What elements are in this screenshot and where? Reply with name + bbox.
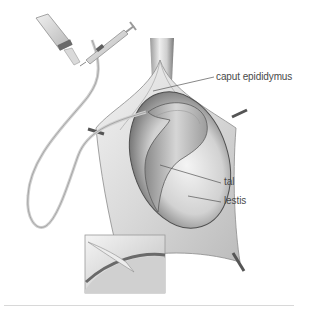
illustration-canvas (0, 0, 310, 312)
label-tal: tal (224, 177, 234, 187)
bottom-divider (4, 305, 294, 306)
magnified-inset (85, 235, 165, 293)
small-syringe (80, 22, 136, 66)
label-caput-epididymus: caput epididymus (216, 72, 292, 82)
large-syringe (36, 14, 80, 65)
anatomical-illustration: caput epididymus tal lestis (0, 0, 310, 312)
label-testis: lestis (224, 196, 246, 206)
